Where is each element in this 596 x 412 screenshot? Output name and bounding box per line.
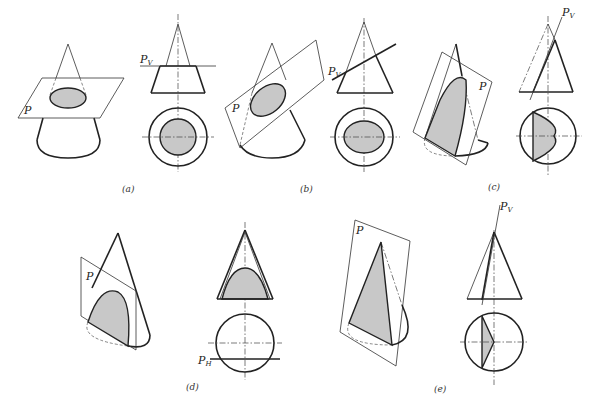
panel-c-pictorial: P <box>413 44 492 165</box>
caption-d: (d) <box>186 382 199 392</box>
trace-label-a: PV <box>139 53 153 67</box>
caption-e: (e) <box>434 384 447 394</box>
section-hyperbola-d-front <box>222 268 268 299</box>
plane-label-d: P <box>85 270 94 283</box>
plane-label-e: P <box>355 224 364 237</box>
panel-b-pictorial: P <box>225 40 324 158</box>
plane-label-c: P <box>478 80 487 93</box>
panel-d-pictorial: P <box>81 233 150 350</box>
conic-sections-diagram: P PV (a) P PV <box>0 0 596 412</box>
trace-label-c: PV <box>561 6 575 20</box>
plane-label-a: P <box>23 104 32 117</box>
section-parabola-c <box>425 78 466 157</box>
trace-label-d: PH <box>197 354 212 368</box>
section-hyperbola-d <box>88 291 129 346</box>
panel-b-ortho: PV <box>327 18 400 172</box>
trace-label-e: PV <box>499 200 513 214</box>
panel-e-ortho: PV <box>460 200 528 385</box>
panel-a-pictorial: P <box>18 44 124 158</box>
section-parabola-c-top <box>533 112 556 161</box>
panel-c-ortho: PV <box>516 6 582 175</box>
trace-label-b: PV <box>327 65 341 79</box>
plane-label-b: P <box>231 102 240 115</box>
panel-e-pictorial: P <box>340 220 410 366</box>
section-triangle-e <box>349 242 392 345</box>
panel-a-ortho: PV <box>139 14 216 172</box>
caption-b: (b) <box>300 184 313 194</box>
caption-a: (a) <box>122 184 135 194</box>
caption-c: (c) <box>488 182 501 192</box>
section-ellipse-b <box>244 77 291 123</box>
panel-d-ortho: PH <box>197 222 282 380</box>
section-circle-a <box>50 88 86 108</box>
